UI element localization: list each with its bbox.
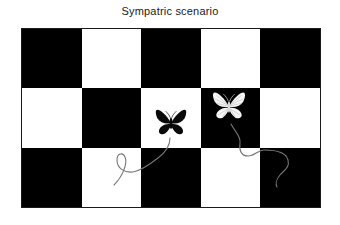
board-square-white xyxy=(201,148,261,207)
board-square-black xyxy=(22,29,82,88)
board-square-black xyxy=(201,88,261,147)
board-square-white xyxy=(82,148,142,207)
board-square-black xyxy=(260,29,320,88)
board-square-black xyxy=(22,148,82,207)
board-square-white xyxy=(141,88,201,147)
board-square-black xyxy=(141,29,201,88)
board-square-black xyxy=(260,148,320,207)
board-square-white xyxy=(201,29,261,88)
board-square-white xyxy=(260,88,320,147)
checkerboard xyxy=(21,28,321,208)
board-square-white xyxy=(22,88,82,147)
board-square-white xyxy=(82,29,142,88)
board-square-black xyxy=(141,148,201,207)
board-square-black xyxy=(82,88,142,147)
sympatric-scenario-figure: Sympatric scenario xyxy=(0,0,340,225)
figure-title: Sympatric scenario xyxy=(0,5,340,17)
